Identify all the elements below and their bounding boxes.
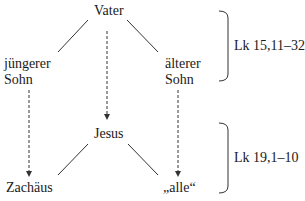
diagram-lines <box>0 0 305 201</box>
line-jesus-zachaeus <box>58 144 88 175</box>
bracket-bottom <box>219 123 228 193</box>
line-vater-aelterer <box>127 20 158 52</box>
ref-lk-19: Lk 19,1–10 <box>234 150 299 166</box>
node-zachaeus: Zachäus <box>6 180 53 196</box>
node-jesus: Jesus <box>94 126 124 142</box>
bracket-top <box>219 11 228 81</box>
arrowhead-jesus <box>104 114 110 120</box>
line-jesus-alle <box>128 144 158 175</box>
node-aelterer-sohn-line2: Sohn <box>165 72 194 88</box>
node-alle: „alle“ <box>163 180 196 196</box>
arrowhead-alle <box>175 171 181 177</box>
arrowhead-zachaeus <box>26 171 32 177</box>
ref-lk-15: Lk 15,11–32 <box>234 38 305 54</box>
line-vater-juengerer <box>58 20 88 52</box>
node-aelterer-sohn-line1: älterer <box>165 56 201 72</box>
node-juengerer-sohn-line1: jüngerer <box>4 56 51 72</box>
node-vater: Vater <box>94 3 124 19</box>
node-juengerer-sohn-line2: Sohn <box>4 72 33 88</box>
